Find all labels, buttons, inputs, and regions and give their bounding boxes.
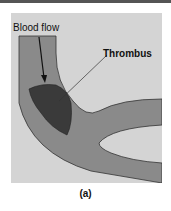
top-border: [0, 0, 171, 3]
blood-flow-label: Blood flow: [13, 22, 59, 33]
thrombus-label: Thrombus: [103, 48, 152, 59]
thrombus-leader-line: [59, 55, 107, 101]
vessel-diagram: [11, 13, 162, 183]
figure-caption: (a): [0, 188, 171, 199]
diagram-panel: Blood flow Thrombus: [11, 13, 162, 183]
